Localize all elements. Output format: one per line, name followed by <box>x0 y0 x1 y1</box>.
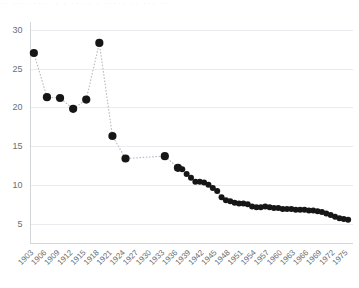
data-point <box>56 94 64 102</box>
y-tick-label: 10 <box>12 180 22 190</box>
data-point <box>345 217 351 223</box>
y-tick-label: 25 <box>12 64 22 74</box>
data-point <box>82 95 90 103</box>
y-tick-label: 15 <box>12 141 22 151</box>
data-point <box>108 132 116 140</box>
gridlines <box>30 31 353 225</box>
data-point <box>214 188 220 194</box>
chart-figure: ·· ···· ···· · · ·· ·· · ····· ·· ··· ··… <box>0 0 359 288</box>
data-point <box>179 166 185 172</box>
data-point <box>43 93 51 101</box>
series-data-points <box>30 39 351 223</box>
data-point <box>121 154 129 162</box>
data-point <box>161 152 169 160</box>
x-axis-tick-labels: 1903190619091912191519181921192419271930… <box>16 248 350 267</box>
data-point <box>69 105 77 113</box>
y-axis-tick-labels: 51015202530 <box>12 25 22 229</box>
y-tick-label: 20 <box>12 102 22 112</box>
y-tick-label: 30 <box>12 25 22 35</box>
x-tick-label: 1975 <box>331 248 350 267</box>
data-point <box>95 39 103 47</box>
y-tick-label: 5 <box>17 219 22 229</box>
data-point <box>30 49 38 57</box>
scatter-chart: 51015202530 1903190619091912191519181921… <box>0 0 359 288</box>
